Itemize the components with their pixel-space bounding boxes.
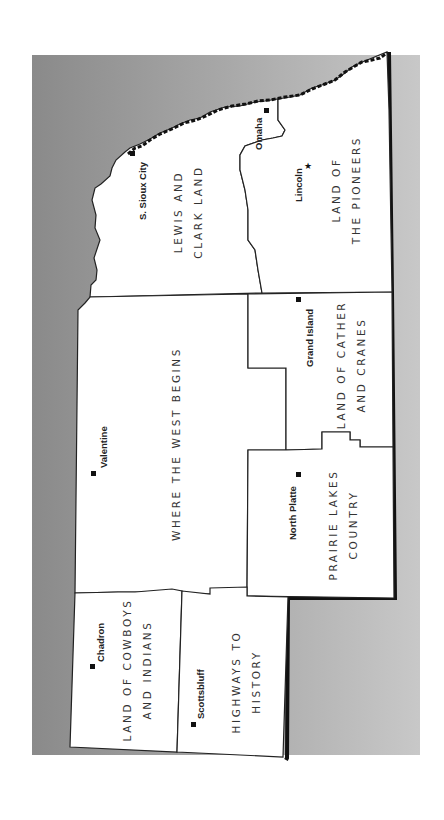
region-prairie-lakes bbox=[247, 432, 394, 598]
svg-text:CLARK LAND: CLARK LAND bbox=[192, 165, 204, 258]
svg-text:Lincoln: Lincoln bbox=[293, 168, 304, 202]
city-square-marker-icon bbox=[90, 664, 95, 669]
svg-text:PRAIRIE LAKES: PRAIRIE LAKES bbox=[327, 469, 339, 580]
svg-text:HIGHWAYS TO: HIGHWAYS TO bbox=[230, 631, 242, 734]
city-square-marker-icon bbox=[296, 297, 301, 302]
svg-text:Grand Island: Grand Island bbox=[304, 309, 315, 367]
svg-text:WHERE THE WEST BEGINS: WHERE THE WEST BEGINS bbox=[170, 347, 182, 541]
svg-text:THE PIONEERS: THE PIONEERS bbox=[350, 136, 362, 245]
svg-text:AND CRANES: AND CRANES bbox=[355, 318, 367, 413]
svg-text:Valentine: Valentine bbox=[98, 426, 109, 468]
svg-text:LAND OF COWBOYS: LAND OF COWBOYS bbox=[121, 599, 133, 742]
svg-text:Chadron: Chadron bbox=[95, 623, 106, 662]
svg-text:LAND OF: LAND OF bbox=[330, 157, 342, 222]
svg-text:Omaha: Omaha bbox=[253, 117, 264, 150]
city-square-marker-icon bbox=[130, 151, 135, 156]
city-square-marker-icon bbox=[191, 722, 196, 727]
capital-star-icon: ★ bbox=[304, 161, 312, 171]
svg-text:LEWIS AND: LEWIS AND bbox=[172, 171, 184, 254]
nebraska-regions-map: LEWIS AND CLARK LAND LAND OF THE PIONEER… bbox=[0, 0, 444, 820]
city-square-marker-icon bbox=[296, 472, 301, 477]
svg-text:COUNTRY: COUNTRY bbox=[347, 491, 359, 560]
city-square-marker-icon bbox=[264, 108, 269, 113]
svg-text:Scottsbluff: Scottsbluff bbox=[195, 669, 206, 719]
svg-text:HISTORY: HISTORY bbox=[250, 650, 262, 714]
region-label-west-begins: WHERE THE WEST BEGINS bbox=[170, 347, 182, 541]
svg-text:AND INDIANS: AND INDIANS bbox=[141, 621, 153, 720]
svg-text:S. Sioux City: S. Sioux City bbox=[137, 161, 148, 220]
svg-text:LAND OF CATHER: LAND OF CATHER bbox=[335, 301, 347, 430]
city-square-marker-icon bbox=[91, 471, 96, 476]
svg-text:North Platte: North Platte bbox=[287, 486, 298, 540]
